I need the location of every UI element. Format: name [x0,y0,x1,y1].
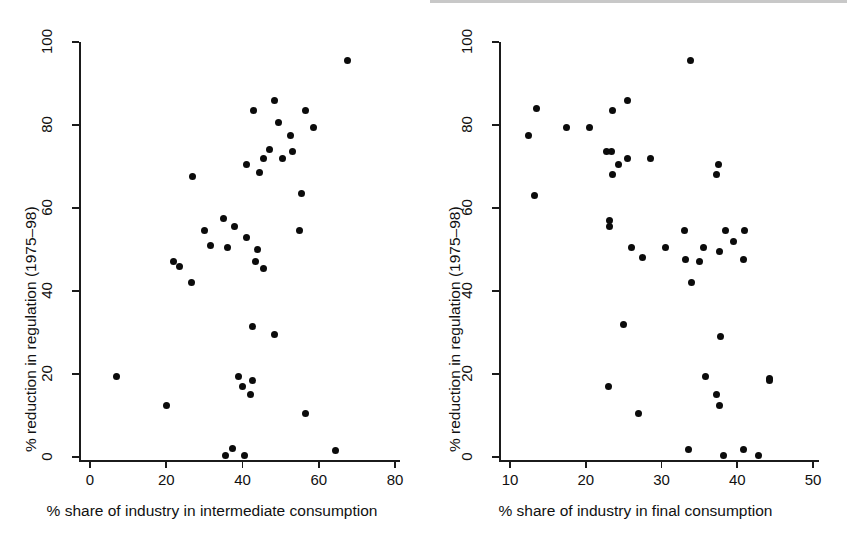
data-point [254,246,261,253]
data-point [713,171,720,178]
data-point [252,258,259,265]
data-point [224,244,231,251]
x-tick-label-40: 40 [717,471,757,488]
y-tick-label-0: 0 [38,437,55,477]
x-tick-30 [661,460,663,468]
data-point [298,190,305,197]
data-point [741,227,748,234]
data-point [241,452,248,459]
x-tick-10 [509,460,511,468]
data-point [296,227,303,234]
x-tick-label-30: 30 [642,471,682,488]
data-point [189,173,196,180]
data-point [266,146,273,153]
x-tick-label-60: 60 [299,471,339,488]
data-point [207,242,214,249]
y-axis-line [79,42,81,460]
x-tick-label-50: 50 [793,471,833,488]
y-tick-40 [72,290,79,292]
data-point [344,57,351,64]
data-point [243,234,250,241]
data-point [722,227,729,234]
data-point [662,244,669,251]
data-point [249,377,256,384]
y-tick-label-100: 100 [38,22,55,62]
data-point [606,223,613,230]
y-tick-100 [492,41,499,43]
y-axis-line [499,42,501,460]
x-axis-title: % share of industry in final consumption [424,502,847,520]
x-tick-40 [736,460,738,468]
x-tick-label-10: 10 [490,471,530,488]
data-point [740,446,747,453]
data-point [222,452,229,459]
y-tick-20 [72,373,79,375]
data-point [279,155,286,162]
data-point [220,215,227,222]
data-point [533,105,540,112]
data-point [647,155,654,162]
y-tick-40 [492,290,499,292]
x-axis-title: % share of industry in intermediate cons… [0,502,424,520]
x-tick-label-80: 80 [375,471,415,488]
data-point [716,248,723,255]
data-point [302,410,309,417]
y-axis-title: % reduction in regulation (1975–98) [446,206,464,452]
data-point [247,391,254,398]
y-tick-label-20: 20 [38,354,55,394]
x-tick-40 [242,460,244,468]
x-axis-line [79,460,400,462]
y-axis-title: % reduction in regulation (1975–98) [22,206,40,452]
data-point [755,452,762,459]
data-point [260,265,267,272]
data-point [249,323,256,330]
data-point [635,410,642,417]
y-tick-60 [492,207,499,209]
y-tick-80 [492,124,499,126]
data-point [525,132,532,139]
data-point [260,155,267,162]
data-point [740,256,747,263]
x-axis-line [499,460,819,462]
data-point [713,391,720,398]
data-point [243,161,250,168]
y-tick-label-60: 60 [38,188,55,228]
data-point [250,107,257,114]
data-point [332,447,339,454]
figure-scatter-pair: 020406080100020406080% share of industry… [0,0,847,547]
data-point [586,124,593,131]
y-tick-60 [72,207,79,209]
data-point [163,402,170,409]
panel-right: 0204060801001020304050% share of industr… [424,0,847,547]
data-point [716,402,723,409]
data-point [624,155,631,162]
data-point [609,107,616,114]
data-point [702,373,709,380]
y-tick-0 [492,456,499,458]
data-point [235,373,242,380]
data-point [620,321,627,328]
y-tick-label-80: 80 [38,105,55,145]
data-point [271,97,278,104]
x-tick-20 [585,460,587,468]
data-point [239,383,246,390]
data-point [717,333,724,340]
data-point [730,238,737,245]
data-point [688,279,695,286]
data-point [766,377,773,384]
data-point [289,148,296,155]
data-point [531,192,538,199]
y-tick-label-80: 80 [458,105,475,145]
data-point [605,383,612,390]
data-point [700,244,707,251]
y-tick-80 [72,124,79,126]
data-point [696,258,703,265]
panel-left: 020406080100020406080% share of industry… [0,0,424,547]
data-point [609,171,616,178]
data-point [229,445,236,452]
data-point [720,452,727,459]
x-tick-20 [165,460,167,468]
y-tick-label-40: 40 [38,271,55,311]
data-point [231,223,238,230]
data-point [188,279,195,286]
